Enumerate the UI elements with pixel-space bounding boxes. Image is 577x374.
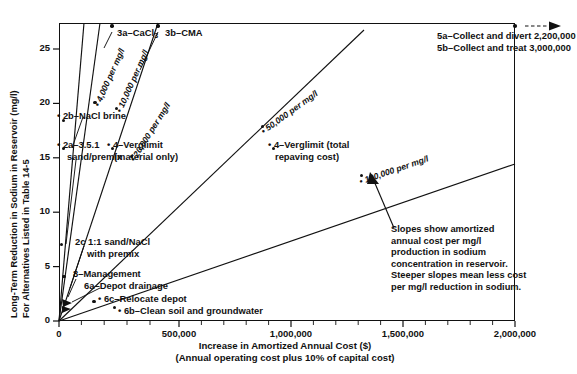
ytick-25: 25	[24, 42, 50, 53]
leader-3a	[104, 32, 112, 48]
label-6a-depot: 6a–Depot drainage	[84, 280, 168, 292]
label-4vt-line1: • 4–Verglimit (total	[268, 139, 349, 151]
slope-explanation-note: Slopes show amortized annual cost per mg…	[391, 224, 526, 294]
note-line-1: Slopes show amortized	[391, 224, 526, 236]
callout-line-5b: 5b–Collect and treat 3,000,000	[437, 42, 576, 54]
xtick-500k: 500,000	[139, 328, 219, 339]
chart-vector-overlay	[0, 0, 577, 374]
label-3a-subscript: 3	[154, 31, 158, 40]
label-6c-relocate: • 6c–Relocate depot	[98, 293, 187, 305]
label-4-verglimit-total: • 4–Verglimit (total repaving cost)	[268, 139, 349, 162]
label-2b: • 2b–NaCl brine	[57, 110, 126, 122]
xtick-0: 0	[19, 328, 99, 339]
label-8-management: 8–Management	[73, 268, 141, 280]
x-axis-minor-ticks	[81, 321, 492, 325]
label-3a-text: 3a–CaCl	[117, 27, 154, 38]
origin-arrow-cluster	[62, 299, 72, 313]
xtick-1-5m: 1,500,000	[363, 328, 443, 339]
x-axis-title-line2: (Annual operating cost plus 10% of capit…	[55, 352, 515, 364]
y-axis-title: Long-Term Reduction in Sodium in Reservo…	[9, 90, 32, 318]
point-6b	[113, 306, 116, 309]
offscale-callout: 5a–Collect and divert 2,200,000 5b–Colle…	[437, 30, 576, 53]
note-line-5: Steeper slopes mean less cost	[391, 270, 526, 282]
callout-line-5a: 5a–Collect and divert 2,200,000	[437, 30, 576, 42]
note-line-6: per mg/l reduction in sodium.	[391, 282, 526, 294]
label-2c-line1: 2c 1:1 sand/NaCl	[75, 236, 150, 248]
xtick-2m: 2,000,000	[475, 328, 555, 339]
xtick-1m: 1,000,000	[251, 328, 331, 339]
x-axis-title: Increase in Amortized Annual Cost ($) (A…	[55, 340, 515, 364]
note-line-3: production in sodium	[391, 247, 526, 259]
label-2c: 2c 1:1 sand/NaCl with premix	[75, 236, 150, 259]
x-axis-title-line1: Increase in Amortized Annual Cost ($)	[55, 340, 515, 352]
label-3a: 3a–CaCl3	[117, 27, 158, 41]
label-3b: 3b–CMA	[165, 27, 203, 39]
note-line-2: annual cost per mg/l	[391, 236, 526, 248]
note-line-4: concentration in reservoir.	[391, 259, 526, 271]
y-axis-title-line2: For Alternatives Listed in Table 14-5	[21, 90, 33, 318]
y-axis-ticks	[53, 49, 59, 321]
label-6b-clean: • 6b–Clean soil and groundwater	[118, 305, 263, 317]
point-3a	[110, 24, 113, 27]
chart-root: 0 5 10 15 20 25 0 500,000 1,000,000 1,50…	[0, 0, 577, 374]
label-4vt-line2: repaving cost)	[268, 151, 349, 163]
y-axis-title-line1: Long-Term Reduction in Sodium in Reservo…	[9, 90, 21, 318]
label-2c-line2: with premix	[75, 248, 150, 260]
